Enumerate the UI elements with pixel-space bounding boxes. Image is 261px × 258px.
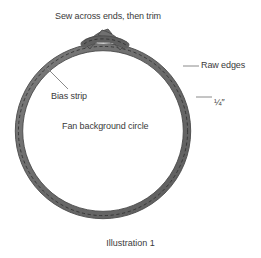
label-bias-strip: Bias strip (51, 91, 87, 102)
label-quarter-inch: ¼″ (214, 97, 225, 108)
label-sew-across-ends: Sew across ends, then trim (55, 11, 161, 22)
figure-caption: Illustration 1 (0, 238, 261, 249)
label-raw-edges: Raw edges (201, 60, 245, 71)
label-fan-background-circle: Fan background circle (62, 121, 148, 132)
leader-line-bias-strip (47, 68, 68, 89)
illustration-figure: Sew across ends, then trim Raw edges ¼″ … (0, 0, 261, 258)
